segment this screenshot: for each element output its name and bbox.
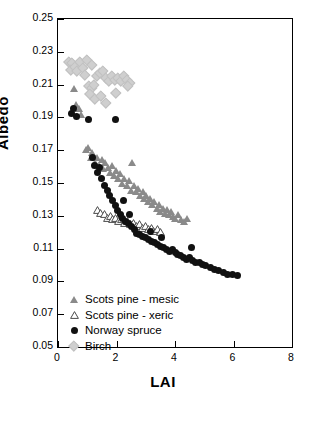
x-tick [58,341,59,347]
data-point [128,159,136,166]
y-tick-label: 0.21 [9,77,53,89]
y-tick [58,314,64,315]
y-tick [58,216,64,217]
legend-label: Scots pine - mesic [85,292,179,308]
y-tick [58,281,64,282]
x-tick-label: 8 [281,351,301,363]
data-point [89,154,96,161]
legend-label: Scots pine - xeric [85,308,173,324]
y-tick-label: 0.25 [9,11,53,23]
y-tick [58,52,64,53]
y-tick [58,347,64,348]
x-tick-label: 0 [47,351,67,363]
y-tick-label: 0.11 [9,241,53,253]
data-point [96,164,103,171]
x-tick-label: 6 [223,351,243,363]
chart-legend: Scots pine - mesicScots pine - xericNorw… [66,292,179,354]
data-point [234,272,241,279]
data-point [126,211,133,218]
legend-item: Scots pine - xeric [66,308,179,324]
data-point [102,99,110,107]
x-tick [292,341,293,347]
data-point [112,89,120,97]
y-tick-label: 0.07 [9,306,53,318]
open-triangle-icon [66,308,82,324]
data-point [70,105,77,112]
filled-circle-icon [66,327,82,334]
legend-item: Scots pine - mesic [66,292,179,308]
y-tick [58,183,64,184]
data-point [85,116,92,123]
x-tick [234,341,235,347]
data-point [73,113,80,120]
y-tick-label: 0.09 [9,273,53,285]
data-point [81,71,89,79]
y-tick-label: 0.17 [9,142,53,154]
y-tick-label: 0.05 [9,339,53,351]
y-tick [58,85,64,86]
y-tick [58,249,64,250]
y-tick [58,117,64,118]
data-point [188,244,195,251]
data-point [90,81,98,89]
x-axis-title: LAI [0,373,326,390]
filled-triangle-icon [66,296,82,303]
data-point [120,197,127,204]
legend-item: Norway spruce [66,323,179,339]
chart-figure: Albedo LAI 0.050.070.090.110.130.150.170… [0,0,326,423]
data-point [112,116,119,123]
diamond-icon [66,342,82,350]
y-tick-label: 0.13 [9,208,53,220]
data-point [183,215,191,222]
legend-label: Birch [85,339,111,355]
data-point [147,228,154,235]
y-tick-label: 0.23 [9,44,53,56]
y-tick [58,19,64,20]
data-point [70,85,78,92]
data-point [158,234,165,241]
y-tick-label: 0.15 [9,175,53,187]
y-tick [58,150,64,151]
data-point [124,82,132,90]
y-tick-label: 0.19 [9,109,53,121]
legend-item: Birch [66,339,179,355]
legend-label: Norway spruce [85,323,162,339]
data-point [88,61,96,69]
